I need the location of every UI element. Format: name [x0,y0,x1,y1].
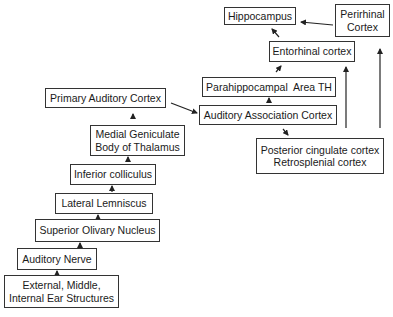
node-lateral-lemniscus: Lateral Lemniscus [55,193,153,214]
posterior-label-2: Retrosplenial cortex [274,156,367,168]
arrow-entorhinal-to-hippocampus [272,29,279,37]
node-entorhinal-cortex: Entorhinal cortex [269,41,355,62]
posterior-label-1: Posterior cingulate cortex [261,144,379,156]
olivary-label: Superior Olivary Nucleus [39,224,155,237]
arrow-perirhinal-to-hippocampus [301,22,333,25]
parahippocampal-label: Parahippocampal Area TH [206,81,332,94]
arrow-parahippocampal-to-entorhinal [276,66,281,72]
perirhinal-label-2: Cortex [347,21,378,33]
node-auditory-association-cortex: Auditory Association Cortex [199,105,337,125]
ear-label-1: External, Middle, [22,279,100,291]
ear-label-2: Internal Ear Structures [9,292,114,304]
node-hippocampus: Hippocampus [224,7,296,25]
arrow-association-to-posterior [283,129,288,135]
node-ear-structures: External, Middle,Internal Ear Structures [4,275,119,308]
association-label: Auditory Association Cortex [204,109,332,122]
node-superior-olivary-nucleus: Superior Olivary Nucleus [35,219,160,242]
arrow-primary-to-association [171,103,197,113]
primary-label: Primary Auditory Cortex [50,92,161,105]
colliculus-label: Inferior colliculus [74,168,152,181]
node-posterior-cingulate-retrosplenial: Posterior cingulate cortexRetrosplenial … [256,138,384,174]
geniculate-label-1: Medial Geniculate [95,128,179,140]
nerve-label: Auditory Nerve [22,253,91,266]
geniculate-label-2: Body of Thalamus [95,141,179,153]
perirhinal-label-1: Perirhinal [340,8,384,20]
node-inferior-colliculus: Inferior colliculus [70,164,156,185]
lemniscus-label: Lateral Lemniscus [61,197,146,210]
entorhinal-label: Entorhinal cortex [273,45,352,58]
node-medial-geniculate: Medial GeniculateBody of Thalamus [90,125,185,156]
node-perirhinal-cortex: PerirhinalCortex [335,4,390,37]
node-parahippocampal-area-th: Parahippocampal Area TH [202,77,336,97]
node-primary-auditory-cortex: Primary Auditory Cortex [45,88,166,108]
node-auditory-nerve: Auditory Nerve [17,248,97,270]
hippocampus-label: Hippocampus [228,10,292,23]
